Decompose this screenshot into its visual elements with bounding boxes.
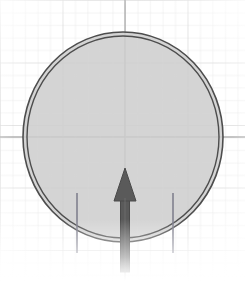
diagram-svg [0,0,245,281]
bottom-fade-overlay [0,0,245,281]
diagram-canvas [0,0,245,281]
